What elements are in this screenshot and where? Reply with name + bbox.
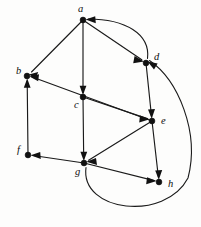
node-f[interactable] [25, 152, 31, 158]
edge-c-to-g [83, 97, 84, 159]
directed-graph-figure: a b c d e f g h [0, 0, 201, 227]
edge-d-to-a-curve [89, 19, 148, 59]
node-label-f: f [17, 144, 22, 155]
node-label-e: e [161, 115, 166, 126]
edge-g-to-f [33, 156, 84, 164]
node-label-c: c [74, 99, 79, 110]
edge-e-to-b [32, 77, 152, 121]
arrowhead-into-h-from-g [146, 177, 156, 184]
arrowhead-into-g-from-c [80, 152, 87, 161]
node-a[interactable] [80, 17, 86, 23]
node-g[interactable] [81, 160, 87, 166]
edge-layer-curved [86, 19, 192, 206]
arrowhead-into-f-from-g [31, 152, 41, 159]
node-e[interactable] [149, 118, 155, 124]
edge-g-to-h [84, 163, 154, 181]
edge-f-to-b [27, 81, 28, 155]
node-b[interactable] [24, 73, 30, 79]
arrowhead-into-c-from-a [80, 86, 87, 95]
edge-a-to-d [83, 20, 142, 60]
arrowhead-into-e-from-c [139, 116, 150, 123]
edge-d-to-e [146, 63, 152, 116]
edge-e-to-h [152, 121, 158, 177]
arrowhead-into-b-from-f [24, 79, 31, 88]
node-h[interactable] [156, 179, 162, 185]
arrowhead-into-h-from-e [155, 170, 162, 180]
node-c[interactable] [80, 94, 86, 100]
edge-g-to-d-curve [86, 61, 192, 207]
node-label-h: h [168, 178, 173, 189]
node-label-d: d [154, 51, 160, 62]
graph-canvas: a b c d e f g h [0, 0, 201, 227]
edge-a-to-b [32, 20, 84, 72]
node-label-a: a [78, 3, 83, 14]
node-label-b: b [16, 65, 21, 76]
arrowhead-into-e-from-d [148, 109, 155, 119]
node-d[interactable] [143, 60, 149, 66]
node-label-g: g [75, 166, 80, 177]
edge-layer-straight [27, 20, 158, 181]
edge-e-to-g [89, 121, 152, 160]
